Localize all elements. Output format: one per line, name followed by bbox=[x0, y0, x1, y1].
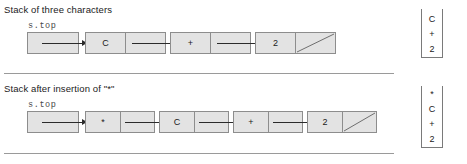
section-divider-rule-2 bbox=[4, 153, 394, 154]
section-1-node-1: C bbox=[85, 32, 166, 54]
section-1-node-1-next bbox=[126, 33, 165, 53]
section-2-caption: Stack after insertion of "*" bbox=[4, 83, 114, 94]
arrow-head-to-node-1 bbox=[42, 43, 86, 44]
section-2-node-2-value: C bbox=[160, 112, 195, 132]
section-1-node-3: 2 bbox=[255, 32, 336, 54]
section-1-node-1-value: C bbox=[86, 33, 126, 53]
section-1-node-2-next bbox=[211, 33, 250, 53]
null-slash-icon bbox=[343, 112, 376, 132]
section-2-node-3-next bbox=[269, 112, 302, 132]
section-2-node-4: 2 bbox=[307, 111, 377, 133]
section-1-stack-panel: C + 2 bbox=[421, 9, 443, 58]
section-1-node-3-null-pointer bbox=[296, 33, 335, 53]
section-1-node-3-value: 2 bbox=[256, 33, 296, 53]
arrow-head-to-node-1-row2 bbox=[42, 122, 86, 123]
section-1-node-2: + bbox=[170, 32, 251, 54]
null-slash-icon bbox=[296, 33, 335, 53]
section-divider-rule-1 bbox=[4, 73, 394, 74]
section-2-node-2-next bbox=[195, 112, 228, 132]
linked-stack-figure: Stack of three characters s.top C + 2 bbox=[0, 0, 467, 164]
section-2-linked-list: * C + 2 bbox=[0, 111, 467, 135]
section-2-stack-item-1: C bbox=[422, 105, 442, 114]
section-1-pointer-label: s.top bbox=[28, 21, 57, 31]
section-1-stack-item-0: C bbox=[422, 15, 442, 24]
section-2-node-1: * bbox=[85, 111, 155, 133]
section-1-head-pointer-box bbox=[27, 32, 79, 54]
section-2-stack-panel: * C + 2 bbox=[421, 86, 443, 148]
section-1-stack-item-1: + bbox=[422, 30, 442, 39]
section-2-node-4-value: 2 bbox=[308, 112, 343, 132]
section-2-pointer-label: s.top bbox=[28, 100, 57, 110]
section-2-stack-item-0: * bbox=[422, 90, 442, 99]
section-1-linked-list: C + 2 bbox=[0, 32, 467, 56]
section-2-node-2: C bbox=[159, 111, 229, 133]
section-2-head-pointer-box bbox=[27, 111, 79, 133]
section-1-caption: Stack of three characters bbox=[4, 4, 112, 15]
section-1-stack-item-2: 2 bbox=[422, 45, 442, 54]
section-2-node-3-value: + bbox=[234, 112, 269, 132]
section-2-node-4-null-pointer bbox=[343, 112, 376, 132]
section-2-node-3: + bbox=[233, 111, 303, 133]
section-2-stack-item-3: 2 bbox=[422, 135, 442, 144]
section-2-node-1-value: * bbox=[86, 112, 121, 132]
section-1-node-2-value: + bbox=[171, 33, 211, 53]
section-2-node-1-next bbox=[121, 112, 154, 132]
section-2-stack-item-2: + bbox=[422, 120, 442, 129]
